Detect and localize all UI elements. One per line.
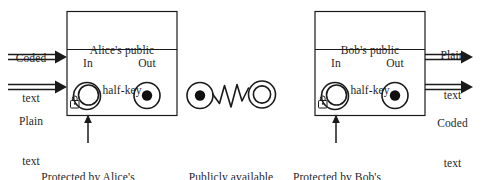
alice-box-title-line2: half-key xyxy=(67,84,177,97)
bob-box-title-line1: Bob's public xyxy=(315,44,425,57)
bob-box-title: Bob's public half-key xyxy=(315,17,425,124)
connector-right-end-icon xyxy=(249,81,276,108)
alice-protection-caption: Protected by Alice's secret code xyxy=(18,144,158,180)
coded-text-output-label-line1: Coded xyxy=(424,117,481,130)
alice-box-title: Alice's public half-key xyxy=(67,17,177,124)
alice-in-label: In xyxy=(72,57,104,70)
connector-left-end-icon xyxy=(187,83,213,109)
alice-out-label: Out xyxy=(130,57,164,70)
connector-zigzag-wave-icon xyxy=(213,85,249,108)
alice-box-title-line1: Alice's public xyxy=(67,44,177,57)
coded-text-output-label: Coded text xyxy=(424,90,481,180)
plain-text-output-label-line1: Plain xyxy=(424,49,481,62)
plain-text-input-label-line1: Plain xyxy=(0,115,62,128)
connector-caption: Publicly available “connector” xyxy=(166,144,296,180)
connector-graphic xyxy=(187,81,276,109)
connector-caption-line1: Publicly available xyxy=(166,171,296,180)
bob-out-label: Out xyxy=(378,57,412,70)
coded-text-output-label-line2: text xyxy=(424,157,481,170)
bob-in-label: In xyxy=(320,57,352,70)
coded-text-input-label-line1: Coded xyxy=(0,52,62,65)
diagram-root: Coded text Plain text Plain text Coded t… xyxy=(0,0,481,180)
alice-protection-caption-line1: Protected by Alice's xyxy=(18,171,158,180)
bob-box-title-line2: half-key xyxy=(315,84,425,97)
